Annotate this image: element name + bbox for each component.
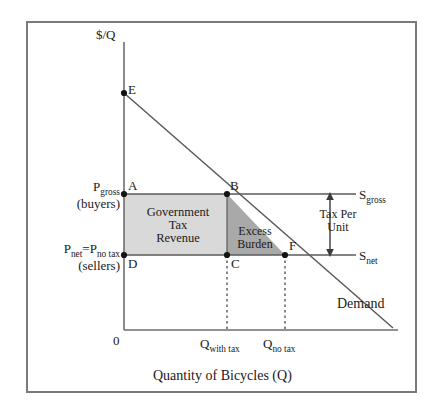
tax-per-unit-line1: Tax Per (310, 208, 366, 221)
region-label-excess-burden: Excess Burden (231, 225, 279, 250)
x-tick-label-q-no-tax: Qno tax (263, 337, 296, 354)
origin-label: 0 (113, 334, 120, 348)
curve-label-demand: Demand (337, 297, 384, 312)
y-label-p-net: Pnet=Pno tax (sellers) (22, 242, 120, 273)
curve-label-s-net: Snet (359, 249, 378, 266)
point-marker-e (121, 90, 127, 96)
x-axis-title: Quantity of Bicycles (Q) (153, 369, 292, 384)
p-net-note: (sellers) (22, 259, 120, 273)
annotation-tax-per-unit: Tax Per Unit (310, 208, 366, 233)
tax-per-unit-arrowhead-down (326, 249, 334, 257)
tax-per-unit-line2: Unit (310, 221, 366, 234)
point-marker-a (121, 191, 127, 197)
gov-rev-line3: Revenue (133, 232, 223, 245)
point-marker-c (224, 252, 230, 258)
s-net-subscript: net (366, 256, 377, 266)
curve-label-s-gross: Sgross (359, 188, 386, 205)
x-tick-label-q-with-tax: Qwith tax (200, 337, 240, 354)
p-net-base: P (64, 241, 71, 256)
region-label-government-tax-revenue: Government Tax Revenue (133, 206, 223, 245)
p-net-line: Pnet=Pno tax (22, 242, 120, 259)
q-with-tax-subscript: with tax (209, 344, 239, 354)
p-gross-note: (buyers) (52, 197, 120, 211)
y-axis-label: $/Q (96, 28, 116, 42)
point-label-e: E (128, 82, 136, 98)
q-no-tax-subscript: no tax (272, 344, 295, 354)
p-gross-line: Pgross (52, 180, 120, 197)
excess-line1: Excess (231, 225, 279, 238)
y-label-p-gross: Pgross (buyers) (52, 180, 120, 211)
excess-line2: Burden (231, 238, 279, 251)
point-marker-f (282, 252, 288, 258)
point-marker-d (121, 252, 127, 258)
point-label-d: D (128, 256, 137, 272)
tax-per-unit-arrowhead-up (326, 192, 334, 200)
point-label-f: F (289, 238, 296, 254)
point-label-b: B (230, 178, 239, 194)
s-gross-subscript: gross (366, 195, 386, 205)
tax-incidence-figure: $/Q Quantity of Bicycles (Q) 0 Qwith tax… (0, 0, 442, 417)
point-label-a: A (128, 178, 137, 194)
q-with-tax-base: Q (200, 336, 209, 351)
point-label-c: C (231, 256, 240, 272)
p-net-equals: =P (82, 241, 97, 256)
q-no-tax-base: Q (263, 336, 272, 351)
